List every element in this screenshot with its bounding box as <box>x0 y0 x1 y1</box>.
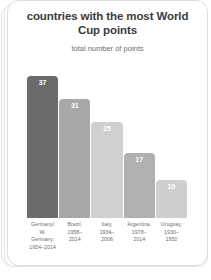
chart-header: countries with the most World Cup points… <box>8 1 207 53</box>
x-axis-label-4: Uruguay, 1930– 1950 <box>156 221 187 251</box>
x-axis-label-0: Germany/ W. Germany, 1954–2014 <box>27 221 58 251</box>
chart-card: countries with the most World Cup points… <box>7 0 208 266</box>
bar-value-label-3: 17 <box>124 156 155 164</box>
bar-column: 10 <box>156 65 187 218</box>
bar-3: 17 <box>124 153 155 218</box>
bar-column: 17 <box>124 65 155 218</box>
x-axis-label-2: Italy, 1934– 2006 <box>91 221 122 251</box>
bar-column: 31 <box>59 65 90 218</box>
bar-value-label-2: 25 <box>91 125 122 133</box>
bar-series: 37 31 25 17 10 <box>27 65 187 218</box>
bar-column: 25 <box>91 65 122 218</box>
bar-value-label-1: 31 <box>59 102 90 110</box>
bar-column: 37 <box>27 65 58 218</box>
chart-title: countries with the most World Cup points <box>18 10 197 37</box>
x-axis-label-1: Brazil, 1958– 2014 <box>59 221 90 251</box>
bar-1: 31 <box>59 99 90 218</box>
bar-0: 37 <box>27 76 58 218</box>
plot-area: 37 31 25 17 10 <box>8 63 208 218</box>
x-axis-labels: Germany/ W. Germany, 1954–2014 Brazil, 1… <box>27 221 187 251</box>
bar-4: 10 <box>156 180 187 218</box>
bar-value-label-4: 10 <box>156 183 187 191</box>
chart-subtitle: total number of points <box>18 44 197 53</box>
bar-value-label-0: 37 <box>27 79 58 87</box>
bar-2: 25 <box>91 122 122 218</box>
x-axis-label-3: Argentina, 1978– 2014 <box>124 221 155 251</box>
